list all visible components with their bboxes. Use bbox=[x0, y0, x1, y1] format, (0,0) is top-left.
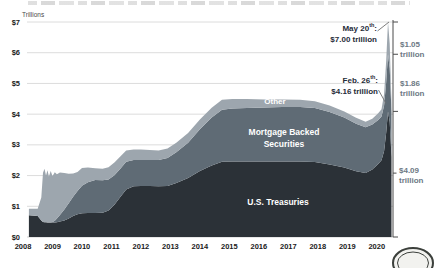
segment-label-mbs: $1.86 trillion bbox=[400, 79, 424, 99]
segment-label-mbs-unit: trillion bbox=[400, 89, 424, 98]
x-axis-label-2014: 2014 bbox=[185, 242, 215, 251]
y-axis-label-1: $1 bbox=[0, 202, 20, 211]
right-axis bbox=[393, 20, 398, 237]
x-axis-label-2015: 2015 bbox=[214, 242, 244, 251]
x-axis-label-2008: 2008 bbox=[8, 242, 38, 251]
annotation-may-colon: : bbox=[374, 24, 377, 33]
series-label-mbs-line2: Securities bbox=[264, 139, 305, 149]
y-axis-label-2: $2 bbox=[0, 171, 20, 180]
annotation-feb-value: $4.16 trillion bbox=[331, 87, 378, 96]
x-axis-label-2009: 2009 bbox=[37, 242, 67, 251]
leader-line-may bbox=[378, 22, 390, 31]
x-axis-label-2016: 2016 bbox=[244, 242, 274, 251]
annotation-feb-colon: : bbox=[375, 76, 378, 85]
annotation-may-20: May 20th: $7.00 trillion bbox=[330, 20, 377, 45]
x-axis-label-2010: 2010 bbox=[67, 242, 97, 251]
x-axis-label-2017: 2017 bbox=[273, 242, 303, 251]
y-axis-label-3: $3 bbox=[0, 140, 20, 149]
segment-label-other-value: $1.05 bbox=[400, 40, 420, 49]
segment-label-other: $1.05 trillion bbox=[400, 40, 424, 60]
x-axis-label-2012: 2012 bbox=[126, 242, 156, 251]
x-axis-label-2011: 2011 bbox=[96, 242, 126, 251]
fed-seal-logo bbox=[390, 246, 436, 268]
series-label-treasuries: U.S. Treasuries bbox=[218, 197, 338, 207]
y-axis-label-0: $0 bbox=[0, 233, 20, 242]
segment-label-treasuries-value: $4.09 bbox=[399, 166, 419, 175]
annotation-feb-26: Feb. 26th: $4.16 trillion bbox=[331, 72, 378, 97]
y-axis-label-7: $7 bbox=[0, 18, 20, 27]
segment-label-treasuries: $4.09 trillion bbox=[399, 166, 423, 186]
x-axis-label-2018: 2018 bbox=[303, 242, 333, 251]
series-label-mbs-line1: Mortgage Backed bbox=[249, 127, 320, 137]
series-label-mbs: Mortgage Backed Securities bbox=[219, 127, 349, 150]
y-axis-label-6: $6 bbox=[0, 48, 20, 57]
y-axis-label-5: $5 bbox=[0, 79, 20, 88]
annotation-may-value: $7.00 trillion bbox=[330, 35, 377, 44]
segment-label-other-unit: trillion bbox=[400, 50, 424, 59]
series-label-other: Other bbox=[245, 97, 305, 106]
y-axis-label-4: $4 bbox=[0, 110, 20, 119]
x-axis-label-2013: 2013 bbox=[155, 242, 185, 251]
annotation-feb-date: Feb. 26 bbox=[343, 76, 371, 85]
annotation-may-date: May 20 bbox=[342, 24, 369, 33]
segment-label-treasuries-unit: trillion bbox=[399, 176, 423, 185]
x-axis-label-2019: 2019 bbox=[332, 242, 362, 251]
segment-label-mbs-value: $1.86 bbox=[400, 79, 420, 88]
x-axis-label-2020: 2020 bbox=[362, 242, 392, 251]
